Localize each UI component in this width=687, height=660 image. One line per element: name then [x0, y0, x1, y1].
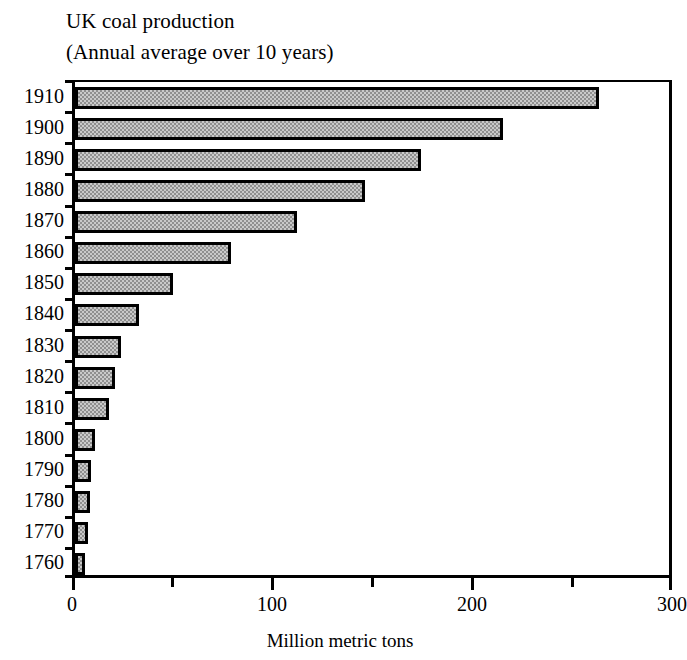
x-tick-mark-50	[171, 578, 174, 587]
y-tick-label-1780: 1780	[0, 490, 64, 510]
bar-row	[75, 491, 669, 513]
x-tick-label-100: 100	[257, 592, 287, 616]
bar-1860	[75, 242, 231, 264]
bar-1910	[75, 87, 599, 109]
bar-row	[75, 367, 669, 389]
y-axis-labels: 1910190018901880187018601850184018301820…	[0, 80, 64, 578]
bar-1800	[75, 429, 95, 451]
bar-1840	[75, 304, 139, 326]
bar-1880	[75, 180, 365, 202]
page-title: UK coal production	[66, 6, 626, 37]
x-tick-mark-100	[271, 578, 274, 590]
plot-area	[72, 80, 672, 578]
bar-1790	[75, 460, 91, 482]
x-tick-label-300: 300	[657, 592, 687, 616]
bar-row	[75, 429, 669, 451]
y-tick-label-1870: 1870	[0, 210, 64, 230]
y-tick-label-1790: 1790	[0, 459, 64, 479]
y-tick-label-1880: 1880	[0, 179, 64, 199]
x-tick-label-200: 200	[457, 592, 487, 616]
bar-1780	[75, 491, 90, 513]
y-tick-label-1850: 1850	[0, 272, 64, 292]
x-tick-mark-150	[371, 578, 374, 587]
y-tick-label-1910: 1910	[0, 86, 64, 106]
bar-row	[75, 336, 669, 358]
bar-1810	[75, 398, 109, 420]
y-tick-label-1810: 1810	[0, 397, 64, 417]
bar-row	[75, 211, 669, 233]
bar-1830	[75, 336, 121, 358]
x-axis-ticks	[72, 578, 672, 590]
bar-1760	[75, 553, 85, 575]
bar-row	[75, 273, 669, 295]
bar-1900	[75, 118, 503, 140]
x-tick-mark-200	[471, 578, 474, 590]
y-tick-label-1890: 1890	[0, 148, 64, 168]
x-axis-title: Million metric tons	[0, 630, 680, 652]
bar-row	[75, 180, 669, 202]
bar-row	[75, 149, 669, 171]
bar-1870	[75, 211, 297, 233]
bar-1890	[75, 149, 421, 171]
y-tick-label-1800: 1800	[0, 428, 64, 448]
y-tick-label-1860: 1860	[0, 241, 64, 261]
bar-row	[75, 553, 669, 575]
bar-row	[75, 460, 669, 482]
y-tick-label-1840: 1840	[0, 303, 64, 323]
x-tick-label-0: 0	[67, 592, 77, 616]
x-tick-mark-250	[571, 578, 574, 587]
bar-1850	[75, 273, 173, 295]
bar-row	[75, 87, 669, 109]
bar-row	[75, 398, 669, 420]
y-tick-label-1770: 1770	[0, 521, 64, 541]
bar-1820	[75, 367, 115, 389]
chart-title-block: UK coal production (Annual average over …	[66, 6, 626, 68]
chart-subtitle: (Annual average over 10 years)	[66, 37, 626, 68]
y-tick-label-1820: 1820	[0, 366, 64, 386]
y-tick-label-1900: 1900	[0, 117, 64, 137]
bar-row	[75, 242, 669, 264]
x-tick-mark-0	[72, 578, 75, 590]
bar-row	[75, 118, 669, 140]
y-tick-label-1830: 1830	[0, 335, 64, 355]
x-tick-mark-300	[669, 578, 672, 590]
bar-1770	[75, 522, 88, 544]
bar-row	[75, 522, 669, 544]
bar-row	[75, 304, 669, 326]
y-tick-label-1760: 1760	[0, 552, 64, 572]
bar-series	[75, 82, 669, 575]
x-axis-labels: 0100200300	[0, 592, 680, 618]
